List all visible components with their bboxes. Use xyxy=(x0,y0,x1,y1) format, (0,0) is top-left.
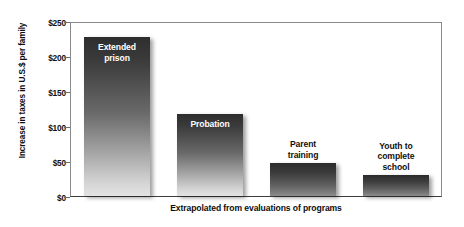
bar-label-probation: Probation xyxy=(177,119,243,130)
y-tick-label-200: $200 xyxy=(30,53,66,63)
bar-extended-prison[interactable]: Extended prison xyxy=(84,37,150,196)
y-tick-mark-0 xyxy=(64,197,70,198)
bar-label-youth-to-complete-school: Youth to complete school xyxy=(347,141,445,173)
y-axis-ticks: $250 $200 $150 $100 $50 $0 xyxy=(24,0,66,227)
bar-probation[interactable]: Probation xyxy=(177,114,243,196)
y-tick-label-100: $100 xyxy=(30,123,66,133)
bar-label-parent-training: Parent training xyxy=(254,139,352,160)
x-axis-title: Extrapolated from evaluations of program… xyxy=(70,203,442,213)
y-tick-label-50: $50 xyxy=(30,158,66,168)
y-tick-label-0: $0 xyxy=(30,193,66,203)
y-tick-label-150: $150 xyxy=(30,88,66,98)
y-tick-label-250: $250 xyxy=(30,18,66,28)
bar-parent-training[interactable]: Parent training xyxy=(270,163,336,196)
plot-area: Extended prison Probation Parent trainin… xyxy=(70,22,442,197)
bar-label-extended-prison: Extended prison xyxy=(84,42,150,63)
bar-youth-to-complete-school[interactable]: Youth to complete school xyxy=(363,175,429,196)
bar-chart-figure: Increase in taxes in U.S.$ per family $2… xyxy=(0,0,464,227)
